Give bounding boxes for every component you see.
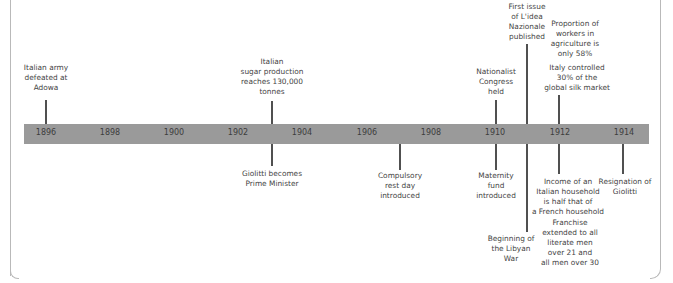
- event-resignation: Resignation of Giolitti: [599, 177, 652, 197]
- event-franchise: Franchise extended to all literate men o…: [541, 218, 599, 268]
- connector-libyan: [526, 144, 528, 232]
- year-label: 1910: [485, 128, 505, 137]
- year-label: 1912: [550, 128, 570, 137]
- event-giolitti-pm: Giolitti becomes Prime Minister: [242, 169, 302, 189]
- year-label: 1914: [614, 128, 634, 137]
- connector-silk: [558, 95, 560, 124]
- frame-right-border: [660, 0, 661, 268]
- event-idea: First issue of L'idea Nazionale publishe…: [509, 2, 546, 42]
- connector-giolitti-pm: [271, 144, 273, 166]
- event-rest-day: Compulsory rest day introduced: [378, 171, 422, 201]
- connector-nationalist: [495, 100, 497, 124]
- connector-income: [558, 144, 560, 174]
- event-sugar: Italian sugar production reaches 130,000…: [241, 57, 304, 97]
- year-label: 1904: [292, 128, 312, 137]
- year-label: 1908: [421, 128, 441, 137]
- frame-corner-bottom-right: [650, 262, 661, 279]
- connector-maternity: [495, 144, 497, 170]
- event-libyan: Beginning of the Libyan War: [488, 234, 535, 264]
- connector-sugar: [271, 101, 273, 124]
- connector-idea: [526, 44, 528, 124]
- year-label: 1906: [357, 128, 377, 137]
- connector-resignation: [622, 144, 624, 174]
- connector-rest-day: [399, 144, 401, 170]
- event-income: Income of an Italian household is half t…: [532, 177, 604, 217]
- event-silk: Italy controlled 30% of the global silk …: [544, 63, 610, 93]
- year-label: 1898: [100, 128, 120, 137]
- year-label: 1902: [228, 128, 248, 137]
- event-nationalist: Nationalist Congress held: [476, 67, 516, 97]
- frame-left-border: [10, 0, 11, 276]
- event-maternity: Maternity fund introduced: [476, 171, 516, 201]
- connector-adowa: [45, 100, 47, 124]
- event-adowa: Italian army defeated at Adowa: [24, 63, 68, 93]
- year-label: 1900: [164, 128, 184, 137]
- year-label: 1896: [36, 128, 56, 137]
- frame-corner-bottom-left: [10, 270, 19, 279]
- event-agriculture: Proportion of workers in agriculture is …: [551, 19, 599, 59]
